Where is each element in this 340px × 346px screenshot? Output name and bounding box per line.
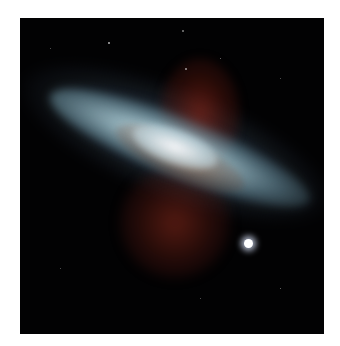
star [220,58,221,59]
star [182,30,184,32]
star [108,42,110,44]
star [185,68,187,70]
star [50,48,51,49]
star [60,268,61,269]
star [280,78,281,79]
star [200,298,201,299]
foreground-star [244,239,253,248]
star [280,288,281,289]
galaxy-image [20,18,324,334]
